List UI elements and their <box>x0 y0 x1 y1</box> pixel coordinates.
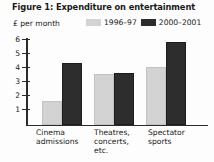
bar-theatres-1996-97 <box>94 74 114 124</box>
x-axis-category-spectator: Spectator sports <box>148 128 206 146</box>
x-axis-category-theatres: Theatres, concerts, etc. <box>94 128 146 155</box>
y-tick-5 <box>22 53 30 54</box>
bar-spectator-2000-2001 <box>166 42 186 125</box>
figure-container: Figure 1: Expenditure on entertainment £… <box>0 0 214 162</box>
y-tick-label-6: 6 <box>9 36 20 44</box>
y-tick-6 <box>22 39 30 40</box>
y-tick-label-3: 3 <box>9 78 20 86</box>
bar-cinema-2000-2001 <box>62 63 82 125</box>
y-tick-label-5: 5 <box>9 50 20 58</box>
y-tick-3 <box>22 81 30 82</box>
y-tick-label-4: 4 <box>9 64 20 72</box>
bar-spectator-1996-97 <box>146 67 166 124</box>
bar-cinema-1996-97 <box>42 101 62 125</box>
x-axis-line <box>26 125 208 127</box>
y-tick-4 <box>22 67 30 68</box>
y-tick-label-2: 2 <box>9 92 20 100</box>
bar-theatres-2000-2001 <box>114 73 134 125</box>
y-tick-1 <box>22 109 30 110</box>
y-tick-label-1: 1 <box>9 106 20 114</box>
x-axis-category-cinema: Cinema admissions <box>36 128 94 146</box>
y-tick-2 <box>22 95 30 96</box>
plot-area: 6 5 4 3 2 1 Cinema admissions Theatres, … <box>0 0 214 162</box>
